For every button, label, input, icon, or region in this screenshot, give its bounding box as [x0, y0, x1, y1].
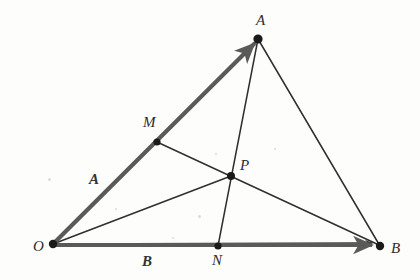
point-group	[49, 34, 384, 250]
diagram-canvas: O A B M N P A B	[0, 0, 420, 280]
point-dot-o	[49, 240, 57, 248]
point-label-b: B	[391, 241, 400, 256]
point-dot-n	[214, 242, 221, 249]
point-dot-p	[227, 172, 235, 180]
paper-speck	[274, 148, 276, 150]
point-label-o: O	[33, 239, 44, 254]
segment-m-b	[157, 142, 379, 245]
point-dot-a	[253, 34, 262, 43]
point-dot-b	[376, 242, 384, 250]
paper-speck	[215, 153, 217, 155]
paper-speck	[48, 178, 51, 181]
segment-group	[53, 39, 380, 246]
vector-group	[53, 44, 372, 245]
segment-o-to-p	[53, 176, 231, 244]
segment-a-n	[218, 39, 258, 246]
segment-a-b	[258, 39, 380, 246]
paper-speck	[198, 215, 201, 218]
point-label-p: P	[240, 158, 249, 173]
geometry-svg	[0, 0, 420, 280]
point-dot-m	[153, 138, 160, 145]
vector-label-b: B	[142, 254, 152, 269]
vector-label-a: A	[89, 172, 99, 187]
point-label-m: M	[143, 115, 156, 130]
point-label-a: A	[256, 13, 265, 28]
point-label-n: N	[212, 253, 222, 268]
paper-speck	[172, 237, 174, 239]
paper-speck	[115, 208, 117, 210]
